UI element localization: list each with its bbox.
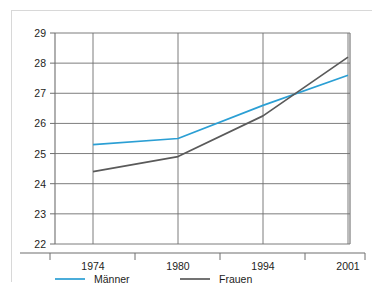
chart-figure-frame: 29 28 27 26 25 24 23 [11,10,372,282]
y-tick-label-22: 22 [34,238,46,250]
chart-background [12,11,373,283]
x-tick-label-1994: 1994 [251,260,275,272]
legend-label-frauen: Frauen [219,273,252,283]
y-tick-label-28: 28 [34,57,46,69]
line-chart: 29 28 27 26 25 24 23 [12,11,373,283]
x-tick-label-1974: 1974 [81,260,105,272]
x-tick-label-2001: 2001 [336,260,360,272]
y-tick-label-27: 27 [34,87,46,99]
y-tick-label-29: 29 [34,27,46,39]
x-tick-label-1980: 1980 [166,260,190,272]
y-tick-label-25: 25 [34,148,46,160]
y-tick-label-23: 23 [34,208,46,220]
y-tick-label-24: 24 [34,178,46,190]
y-tick-label-26: 26 [34,117,46,129]
legend-label-maenner: Männer [94,273,130,283]
